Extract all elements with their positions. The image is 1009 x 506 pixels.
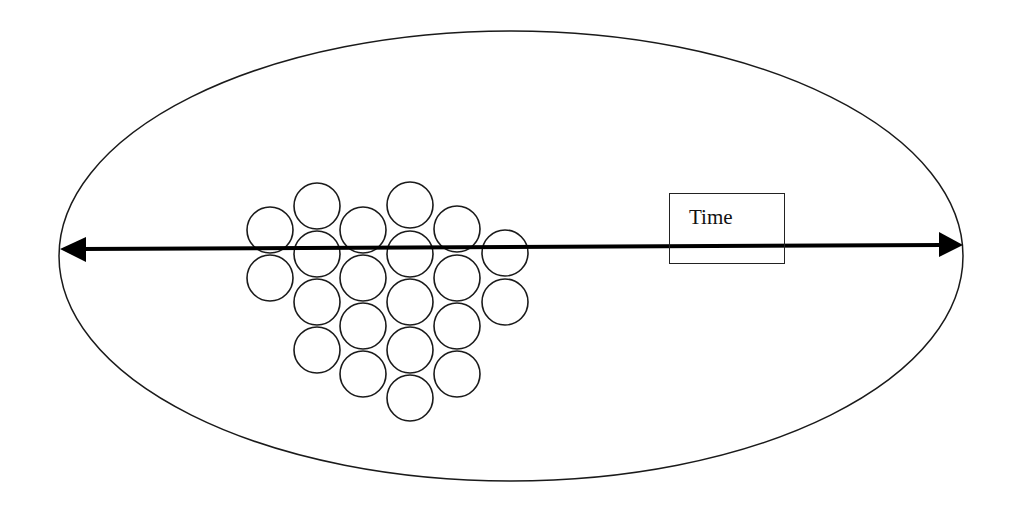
circle-item	[387, 182, 433, 228]
circle-item	[434, 303, 480, 349]
circle-item	[340, 255, 386, 301]
circle-item	[482, 230, 528, 276]
circle-item	[340, 351, 386, 397]
left-arrowhead-icon	[60, 237, 86, 262]
circle-item	[294, 327, 340, 373]
circle-item	[387, 279, 433, 325]
circle-item	[482, 279, 528, 325]
container-ellipse	[59, 31, 963, 481]
circle-item	[294, 279, 340, 325]
circle-item	[387, 231, 433, 277]
circle-item	[434, 255, 480, 301]
circle-item	[294, 183, 340, 229]
right-arrowhead-icon	[939, 232, 963, 257]
circle-item	[434, 206, 480, 252]
circle-item	[387, 375, 433, 421]
time-label: Time	[689, 207, 733, 228]
time-axis-line	[80, 245, 943, 249]
circle-item	[294, 231, 340, 277]
diagram-svg	[0, 0, 1009, 506]
circle-item	[434, 351, 480, 397]
circle-item	[340, 303, 386, 349]
circle-cluster	[247, 182, 528, 421]
circle-item	[247, 255, 293, 301]
circle-item	[387, 327, 433, 373]
diagram-canvas: Time	[0, 0, 1009, 506]
